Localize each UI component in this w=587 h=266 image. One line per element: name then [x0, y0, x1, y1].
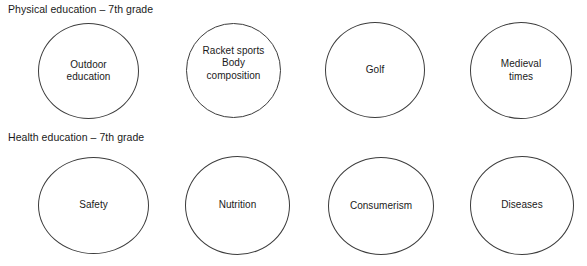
circle-golf: Golf: [325, 22, 425, 118]
circle-label: Safety: [73, 199, 114, 211]
circle-medieval-times: Medieval times: [470, 22, 572, 119]
circle-label: Diseases: [495, 199, 549, 211]
circle-label: Nutrition: [213, 199, 263, 211]
circle-label: Outdoor education: [61, 59, 117, 84]
circle-nutrition: Nutrition: [185, 156, 290, 255]
circle-label: Consumerism: [344, 200, 418, 212]
circle-label: Racket sports Body composition: [197, 45, 271, 82]
circle-racket-sports-body-composition: Racket sports Body composition: [186, 23, 281, 118]
circle-label: Medieval times: [495, 58, 547, 83]
figure-caption-clipped: [0, 258, 587, 266]
section-heading-physical-education: Physical education – 7th grade: [8, 3, 153, 15]
circle-outdoor-education: Outdoor education: [38, 23, 139, 119]
circle-label: Golf: [360, 64, 391, 76]
section-heading-health-education: Health education – 7th grade: [8, 131, 144, 143]
circle-diseases: Diseases: [470, 156, 574, 255]
figure-canvas: Physical education – 7th grade Outdoor e…: [0, 0, 587, 266]
circle-consumerism: Consumerism: [328, 157, 434, 255]
circle-safety: Safety: [38, 157, 149, 254]
